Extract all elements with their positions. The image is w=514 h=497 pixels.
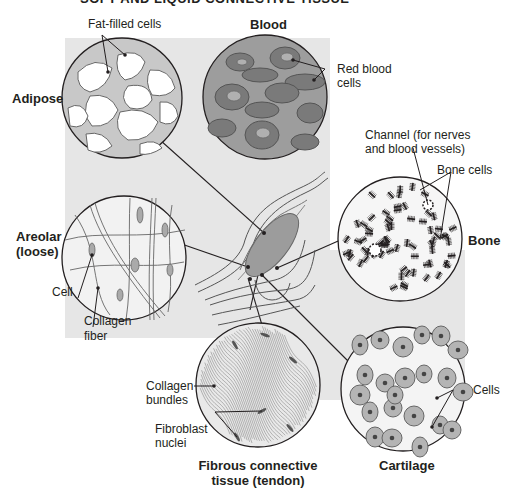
chondrocyte-nucleus bbox=[461, 390, 466, 395]
tissue-name-areolar-line2: (loose) bbox=[16, 244, 59, 259]
bone-lacuna bbox=[397, 185, 403, 193]
chondrocyte-nucleus bbox=[373, 435, 378, 440]
label-bone-cells: Bone cells bbox=[437, 163, 492, 177]
chondrocyte-nucleus bbox=[456, 348, 461, 353]
bone-lacuna bbox=[365, 230, 373, 237]
tissue-name-blood: Blood bbox=[250, 17, 287, 32]
tissue-name-fibrous-line1: Fibrous connective bbox=[188, 458, 328, 473]
chondrocyte-nucleus bbox=[368, 410, 373, 415]
chondrocyte-nucleus bbox=[391, 406, 396, 411]
chondrocyte-nucleus bbox=[445, 376, 450, 381]
chondrocyte-nucleus bbox=[422, 372, 427, 377]
bone-lacuna bbox=[411, 253, 419, 259]
tissue-name-areolar-line1: Areolar bbox=[16, 229, 62, 244]
label-cartilage-cells: Cells bbox=[473, 383, 500, 397]
bone-lacuna bbox=[447, 252, 456, 259]
label-collagen-fiber-line1: Collagen bbox=[84, 314, 131, 328]
bone-lacuna bbox=[398, 272, 404, 280]
chondrocyte-nucleus bbox=[393, 393, 398, 398]
label-collagen-fiber-line2: fiber bbox=[84, 329, 107, 343]
bone-lacuna bbox=[407, 215, 416, 222]
chondrocyte-nucleus bbox=[383, 381, 388, 386]
blood-circle bbox=[203, 35, 327, 159]
chondrocyte-nucleus bbox=[390, 436, 395, 441]
label-fibroblast-line2: nuclei bbox=[155, 436, 186, 450]
tissue-name-fibrous-line2: tissue (tendon) bbox=[188, 473, 328, 488]
bone-lacuna bbox=[429, 246, 436, 255]
bone-lacuna bbox=[381, 241, 389, 248]
chondrocyte-nucleus bbox=[403, 376, 408, 381]
areolar-circle bbox=[62, 196, 186, 320]
label-collagen-bundles-line1: Collagen bbox=[146, 379, 193, 393]
label-channel-line1: Channel (for nerves bbox=[365, 128, 470, 142]
chondrocyte-nucleus bbox=[358, 393, 363, 398]
bone-lacuna bbox=[419, 218, 427, 225]
chondrocyte-nucleus bbox=[450, 428, 455, 433]
chondrocyte-nucleus bbox=[378, 338, 383, 343]
connective-tissue-diagram bbox=[0, 0, 514, 497]
chondrocyte-nucleus bbox=[438, 423, 443, 428]
label-fibroblast-line1: Fibroblast bbox=[155, 422, 208, 436]
bone-circle bbox=[338, 177, 462, 301]
tissue-name-bone: Bone bbox=[468, 233, 501, 248]
tissue-name-adipose: Adipose bbox=[12, 91, 63, 106]
chondrocyte-nucleus bbox=[401, 345, 406, 350]
chondrocyte-nucleus bbox=[439, 334, 444, 339]
adipose-circle bbox=[62, 38, 182, 158]
chondrocyte-nucleus bbox=[363, 373, 368, 378]
label-cells-rbc: cells bbox=[337, 76, 361, 90]
label-red-blood: Red blood bbox=[337, 62, 392, 76]
label-cell: Cell bbox=[52, 285, 73, 299]
chondrocyte-nucleus bbox=[420, 333, 425, 338]
chondrocyte-nucleus bbox=[358, 343, 363, 348]
cartilage-circle bbox=[341, 326, 473, 457]
label-fat-filled-cells: Fat-filled cells bbox=[88, 17, 161, 31]
label-channel-line2: and blood vessels) bbox=[365, 142, 465, 156]
chondrocyte-nucleus bbox=[412, 414, 417, 419]
label-collagen-bundles-line2: bundles bbox=[146, 393, 188, 407]
chondrocyte-nucleus bbox=[418, 445, 423, 450]
tissue-name-cartilage: Cartilage bbox=[379, 458, 435, 473]
